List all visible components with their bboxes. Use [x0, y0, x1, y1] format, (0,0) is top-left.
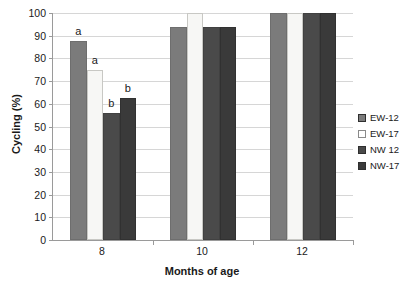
y-axis-tick-label: 40 — [20, 144, 46, 154]
y-axis-tick-label: 90 — [20, 31, 46, 41]
legend-label: EW-17 — [370, 129, 399, 139]
y-axis-tick-label: 20 — [20, 190, 46, 200]
bar — [120, 98, 137, 240]
legend: EW-12EW-17NW 12NW-17 — [358, 110, 420, 174]
x-axis-tick-label: 12 — [252, 246, 352, 257]
legend-swatch-icon — [358, 146, 366, 154]
bar — [70, 41, 87, 240]
legend-label: NW-17 — [370, 161, 399, 171]
bar-chart: Cycling (%) 0102030405060708090100 aabb … — [0, 0, 420, 289]
y-axis-tick — [49, 104, 53, 105]
legend-swatch-icon — [358, 114, 366, 122]
significance-label: a — [66, 26, 91, 37]
x-axis-tick-label: 10 — [152, 246, 252, 257]
y-axis-tick — [49, 58, 53, 59]
bar — [287, 13, 304, 240]
y-axis-tick — [49, 36, 53, 37]
legend-swatch-icon — [358, 162, 366, 170]
y-axis-tick-label: 60 — [20, 99, 46, 109]
legend-item: NW 12 — [358, 142, 420, 158]
y-axis-tick-label: 70 — [20, 76, 46, 86]
y-axis-tick-label: 0 — [20, 235, 46, 245]
x-axis-tick-label: 8 — [52, 246, 152, 257]
bar — [270, 13, 287, 240]
legend-item: NW-17 — [358, 158, 420, 174]
y-axis-tick — [49, 149, 53, 150]
bar — [87, 70, 104, 240]
y-axis-tick-label: 100 — [20, 8, 46, 18]
legend-item: EW-12 — [358, 110, 420, 126]
significance-label: b — [116, 83, 141, 94]
y-axis-tick-label: 80 — [20, 53, 46, 63]
bar — [170, 27, 187, 240]
legend-label: EW-12 — [370, 113, 399, 123]
bar — [103, 113, 120, 240]
y-axis-tick — [49, 195, 53, 196]
legend-item: EW-17 — [358, 126, 420, 142]
x-axis-separator — [153, 240, 154, 245]
bar — [203, 27, 220, 240]
y-axis-tick — [49, 81, 53, 82]
x-axis-title: Months of age — [52, 265, 352, 277]
bar — [320, 13, 337, 240]
y-axis-tick-label: 10 — [20, 212, 46, 222]
legend-swatch-icon — [358, 130, 366, 138]
y-axis-tick — [49, 217, 53, 218]
legend-label: NW 12 — [370, 145, 399, 155]
bar — [187, 13, 204, 240]
bar — [220, 27, 237, 240]
x-axis-separator — [253, 240, 254, 245]
y-axis-tick — [49, 240, 53, 241]
y-axis-tick — [49, 127, 53, 128]
y-axis-tick — [49, 172, 53, 173]
y-axis-tick-label: 50 — [20, 122, 46, 132]
y-axis-tick — [49, 13, 53, 14]
y-axis-tick-label: 30 — [20, 167, 46, 177]
x-axis-separator — [353, 240, 354, 245]
y-axis-tick-labels: 0102030405060708090100 — [18, 0, 46, 289]
significance-label: a — [83, 55, 108, 66]
plot-area: aabb — [52, 13, 353, 241]
bar — [303, 13, 320, 240]
